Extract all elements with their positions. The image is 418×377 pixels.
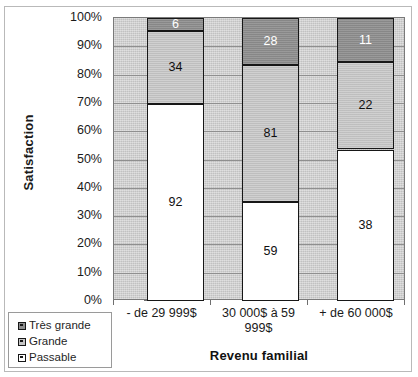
legend-item-label: Grande (29, 336, 67, 348)
x-tick-label-income-high: + de 60 000$ (307, 306, 405, 321)
x-tick-mark (404, 300, 405, 305)
bar-segment-value: 81 (264, 127, 278, 140)
bar-segment-value: 6 (172, 18, 179, 31)
bar-segment-value: 34 (169, 61, 183, 74)
y-tick-label: 90% (40, 38, 102, 52)
legend-item-label: Très grande (29, 320, 91, 332)
y-tick-label: 0% (40, 293, 102, 307)
x-tick-mark (113, 300, 114, 305)
x-tick-label-income-low: - de 29 999$ (113, 306, 210, 321)
legend-swatch-icon (18, 338, 26, 346)
bar-column[interactable]: 11 22 38 (337, 18, 394, 299)
bar-segment-value: 92 (169, 196, 183, 209)
y-tick-label: 100% (40, 10, 102, 24)
legend-swatch-icon (18, 322, 26, 330)
bar-segment-passable[interactable]: 59 (242, 202, 299, 301)
y-axis-tick-labels: 100% 90% 80% 70% 60% 50% 40% 30% 20% 10%… (40, 17, 108, 300)
x-tick-label-line: - de 29 999$ (113, 306, 210, 321)
y-tick-label: 30% (40, 208, 102, 222)
x-tick-mark (210, 300, 211, 305)
bar-segment-passable[interactable]: 92 (147, 104, 204, 301)
bar-segment-passable[interactable]: 38 (337, 150, 394, 302)
legend-item-grande[interactable]: Grande (18, 334, 111, 349)
bar-series-group: 6 34 92 28 81 59 (114, 18, 404, 299)
x-axis-title: Revenu familial (113, 348, 405, 363)
legend-item-label: Passable (29, 352, 76, 364)
y-axis-title: Satisfaction (21, 68, 36, 238)
x-axis-tick-labels: - de 29 999$ 30 000$ à 59 999$ + de 60 0… (113, 306, 405, 346)
y-tick-label: 10% (40, 265, 102, 279)
bar-segment-tres-grande[interactable]: 28 (242, 18, 299, 65)
y-tick-label: 20% (40, 236, 102, 250)
bar-segment-value: 38 (359, 219, 373, 232)
bar-segment-grande[interactable]: 22 (337, 62, 394, 150)
bar-segment-tres-grande[interactable]: 6 (147, 18, 204, 31)
x-tick-label-line: + de 60 000$ (307, 306, 405, 321)
bar-segment-value: 11 (359, 34, 372, 47)
legend: Très grande Grande Passable (8, 312, 112, 368)
x-tick-label-income-mid: 30 000$ à 59 999$ (210, 306, 307, 336)
legend-swatch-icon (18, 354, 26, 362)
legend-item-tres-grande[interactable]: Très grande (18, 318, 111, 333)
y-tick-label: 50% (40, 152, 102, 166)
y-tick-label: 40% (40, 180, 102, 194)
bar-segment-tres-grande[interactable]: 11 (337, 18, 394, 62)
bar-segment-grande[interactable]: 81 (242, 65, 299, 201)
legend-item-passable[interactable]: Passable (18, 350, 111, 365)
x-tick-label-line: 30 000$ à 59 (210, 306, 307, 321)
stacked-bar-chart: Satisfaction 100% 90% 80% 70% 60% 50% 40… (0, 0, 418, 377)
y-tick-label: 60% (40, 123, 102, 137)
bar-segment-value: 59 (264, 245, 278, 258)
bar-segment-grande[interactable]: 34 (147, 31, 204, 104)
plot-area: 6 34 92 28 81 59 (113, 17, 405, 300)
bar-column[interactable]: 6 34 92 (147, 18, 204, 299)
y-tick-label: 80% (40, 67, 102, 81)
bar-segment-value: 28 (264, 35, 278, 48)
bar-column[interactable]: 28 81 59 (242, 18, 299, 299)
x-tick-mark (307, 300, 308, 305)
y-tick-label: 70% (40, 95, 102, 109)
x-tick-label-line: 999$ (210, 321, 307, 336)
bar-segment-value: 22 (359, 99, 373, 112)
